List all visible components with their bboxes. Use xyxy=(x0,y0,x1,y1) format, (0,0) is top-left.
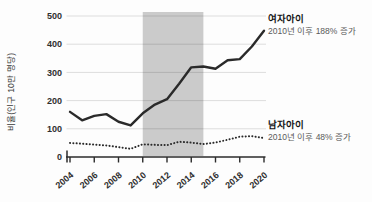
boys-series-note: 2010년 이후 48% 증가 xyxy=(268,132,370,143)
x-tick-label: 2010 xyxy=(126,170,148,191)
x-tick-label: 2012 xyxy=(151,170,173,191)
y-tick-label: 100 xyxy=(47,124,62,134)
x-tick-label: 2018 xyxy=(223,170,245,191)
girls-series-note: 2010년 이후 188% 증가 xyxy=(268,26,370,37)
x-tick-label: 2016 xyxy=(199,170,221,191)
boys-series-label: 남자아이 xyxy=(268,119,370,131)
highlight-band xyxy=(143,12,204,156)
x-tick-label: 2014 xyxy=(175,170,197,191)
y-tick-label: 0 xyxy=(57,152,62,162)
x-tick-label: 2020 xyxy=(248,170,270,191)
y-tick-label: 200 xyxy=(47,96,62,106)
y-tick-label: 300 xyxy=(47,68,62,78)
x-tick-label: 2006 xyxy=(78,170,100,191)
y-tick-label: 500 xyxy=(47,11,62,21)
series-annotation-girls: 여자아이 2010년 이후 188% 증가 xyxy=(268,13,370,37)
x-tick-label: 2004 xyxy=(54,170,76,191)
y-tick-label: 400 xyxy=(47,39,62,49)
series-annotation-boys: 남자아이 2010년 이후 48% 증가 xyxy=(268,119,370,143)
x-tick-label: 2008 xyxy=(102,170,124,191)
girls-series-label: 여자아이 xyxy=(268,13,370,25)
chart-figure: 비율(인구 10만 명당) 20042006200820102012201420… xyxy=(0,0,372,202)
